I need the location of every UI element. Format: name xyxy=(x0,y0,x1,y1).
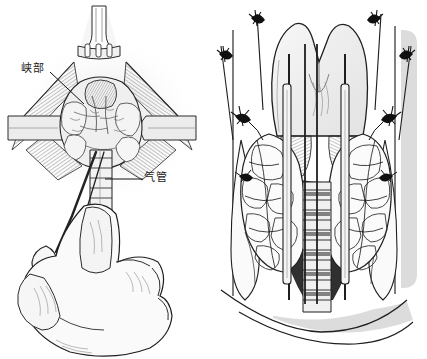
retractor-blade-right[interactable] xyxy=(341,54,349,300)
label-trachea: 气管 xyxy=(144,172,167,184)
retractor-blade-left-lateral xyxy=(8,116,66,140)
panel-operative-field-view xyxy=(0,0,214,359)
retractor-blade-right-lateral xyxy=(140,116,196,140)
label-isthmus: 峡部 xyxy=(21,63,44,75)
thyroid-isthmus xyxy=(85,80,117,109)
illustration-page: 峡部 气管 xyxy=(0,0,427,359)
surgeon-hand xyxy=(18,204,172,356)
panel-dissected-thyroid-view xyxy=(205,0,427,359)
skin-retractor-top xyxy=(78,6,120,59)
retractor-blade-left[interactable] xyxy=(283,54,291,300)
